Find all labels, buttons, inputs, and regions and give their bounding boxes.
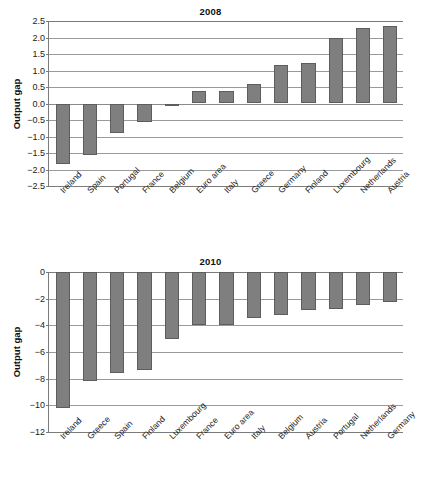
x-axis-tick-label: France (194, 415, 220, 441)
x-axis-tick-label: Portugal (112, 165, 142, 195)
x-axis-labels-2010: IrelandGreeceSpainFinlandLuxembourgFranc… (0, 250, 421, 497)
x-axis-tick-label: Austria (385, 169, 411, 195)
x-axis-tick-label: Finland (140, 414, 167, 441)
x-axis-tick-label: Portugal (331, 411, 361, 441)
chart-figure-2008: 2008 Output gap 2.52.01.51.00.50.0−0.5−1… (0, 0, 421, 250)
x-axis-tick-label: Italy (222, 177, 240, 195)
x-axis-tick-label: Belgium (167, 166, 196, 195)
x-axis-tick-label: Greece (85, 414, 112, 441)
x-axis-tick-label: Belgium (276, 412, 305, 441)
x-axis-tick-label: France (140, 169, 166, 195)
x-axis-tick-label: Italy (249, 423, 267, 441)
x-axis-tick-label: Ireland (58, 169, 84, 195)
x-axis-tick-label: Ireland (58, 415, 84, 441)
x-axis-tick-label: Spain (112, 418, 135, 441)
x-axis-labels-2008: IrelandSpainPortugalFranceBelgiumEuro ar… (0, 0, 421, 250)
x-axis-tick-label: Austria (303, 415, 329, 441)
x-axis-tick-label: Finland (303, 168, 330, 195)
x-axis-tick-label: Germany (276, 163, 308, 195)
x-axis-tick-label: Euro area (194, 161, 228, 195)
chart-figure-2010: 2010 Output gap 0−2−4−6−8−10−12 IrelandG… (0, 250, 421, 497)
x-axis-tick-label: Greece (249, 168, 276, 195)
x-axis-tick-label: Spain (85, 172, 108, 195)
